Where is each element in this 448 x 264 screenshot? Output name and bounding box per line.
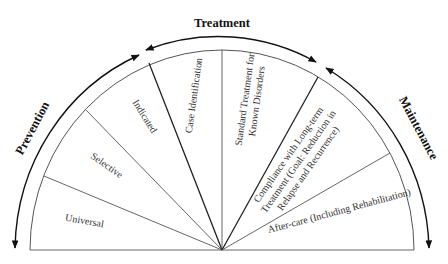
phase-label-treatment: Treatment [194, 16, 251, 30]
segment-label-selective: Selective [89, 150, 126, 180]
phase-label-prevention: Prevention [13, 99, 53, 157]
phase-label-maintenance: Maintenance [396, 94, 441, 162]
segment-label-case-identification: Case Identification [183, 57, 204, 134]
treatment-arrow [146, 36, 316, 62]
intervention-spectrum-diagram: Treatment Prevention Maintenance Univers… [0, 0, 448, 264]
segment-label-universal: Universal [65, 212, 105, 230]
segment-label-standard-treatment: Standard Treatment for Known Disorders [233, 52, 269, 148]
segment-label-compliance: Compliance with Long-term Treatment (Goa… [249, 101, 349, 222]
divider-indicated-case [149, 63, 222, 250]
segment-label-indicated: Indicated [130, 97, 159, 134]
maintenance-arrow [326, 68, 429, 248]
